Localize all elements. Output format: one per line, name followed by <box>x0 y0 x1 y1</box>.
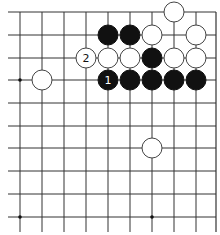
white-stone: 2 <box>76 48 96 68</box>
black-stone <box>98 25 118 45</box>
white-stone <box>98 48 118 68</box>
stone-disc <box>98 48 118 68</box>
black-stone <box>120 70 140 90</box>
stone-disc <box>164 2 184 22</box>
stone-disc <box>142 25 162 45</box>
star-point <box>150 215 154 219</box>
stone-disc <box>142 70 162 90</box>
white-stone <box>142 138 162 158</box>
board-grid <box>8 12 216 232</box>
go-board-diagram: 21 <box>0 0 220 235</box>
white-stone <box>142 25 162 45</box>
stone-disc <box>164 70 184 90</box>
white-stone <box>120 48 140 68</box>
white-stone <box>186 48 206 68</box>
black-stone <box>186 70 206 90</box>
stone-disc <box>32 70 52 90</box>
stone-disc <box>120 25 140 45</box>
black-stone: 1 <box>98 70 118 90</box>
black-stone <box>142 70 162 90</box>
black-stone <box>142 48 162 68</box>
move-number-label: 1 <box>105 74 112 87</box>
stone-disc <box>186 25 206 45</box>
white-stone <box>164 2 184 22</box>
stone-disc <box>142 138 162 158</box>
star-point <box>18 78 22 82</box>
stone-disc <box>142 48 162 68</box>
stone-disc <box>186 48 206 68</box>
stone-disc <box>120 48 140 68</box>
white-stone <box>32 70 52 90</box>
black-stone <box>120 25 140 45</box>
white-stone <box>186 25 206 45</box>
stone-disc <box>120 70 140 90</box>
black-stone <box>164 70 184 90</box>
stone-disc <box>98 25 118 45</box>
white-stone <box>164 48 184 68</box>
stone-disc <box>164 48 184 68</box>
stone-disc <box>186 70 206 90</box>
move-number-label: 2 <box>83 52 90 65</box>
star-point <box>18 215 22 219</box>
